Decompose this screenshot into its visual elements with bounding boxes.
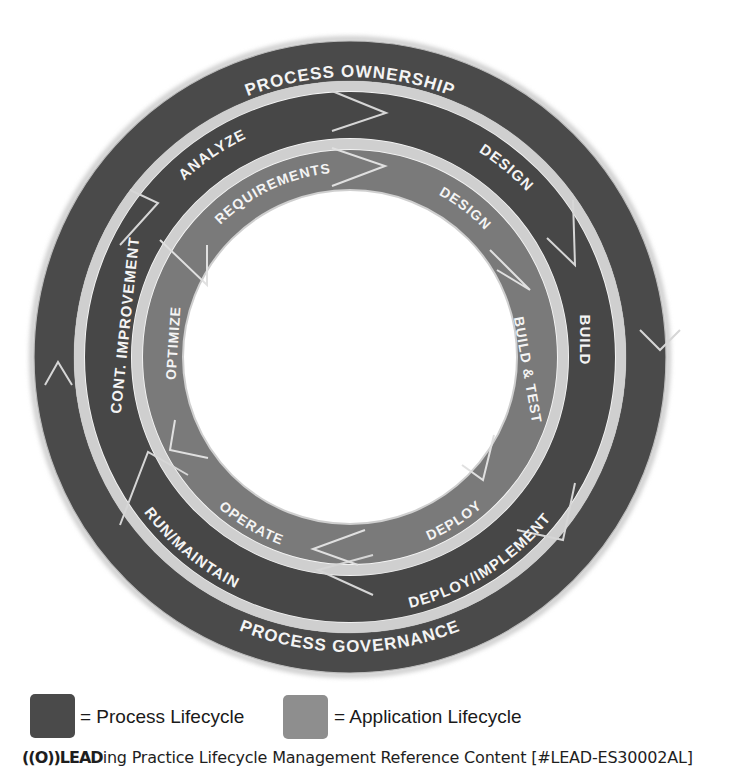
lifecycle-diagram: PROCESS OWNERSHIP PROCESS GOVERNANCE ANA… — [0, 0, 749, 700]
outer-process-band — [54, 61, 646, 653]
leading-practice-logo: ((O))LEAD — [22, 748, 103, 767]
footer-text: ing Practice Lifecycle Management Refere… — [103, 748, 693, 767]
process-label-build: BUILD — [577, 315, 594, 366]
legend-label-application: = Application Lifecycle — [334, 706, 521, 728]
legend: = Process Lifecycle = Application Lifecy… — [0, 690, 749, 750]
legend-swatch-process — [30, 694, 75, 738]
legend-label-process: = Process Lifecycle — [80, 706, 244, 728]
legend-swatch-application — [283, 695, 328, 739]
footer-caption: ((O))LEADing Practice Lifecycle Manageme… — [22, 748, 693, 767]
